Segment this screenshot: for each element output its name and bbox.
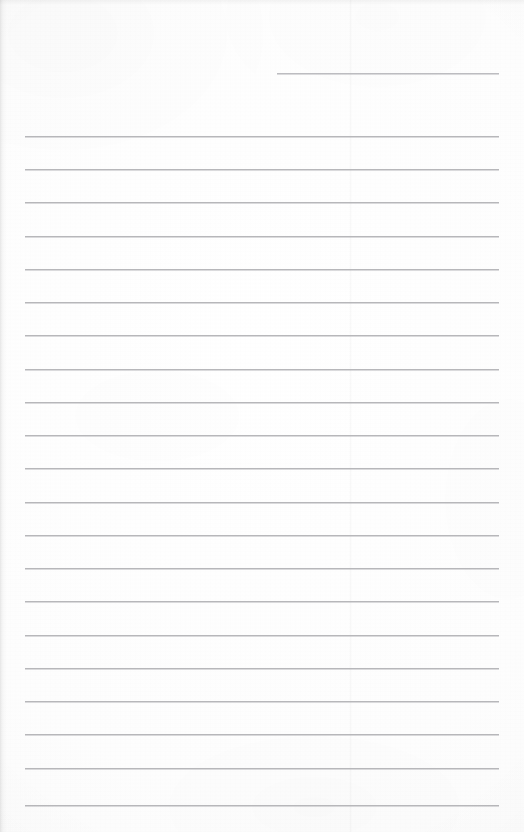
ruled-line <box>25 568 499 569</box>
scanned-page <box>0 0 524 832</box>
ruled-line <box>25 369 499 370</box>
ruled-line <box>25 468 499 469</box>
ruled-line <box>25 701 499 702</box>
ruled-line <box>25 805 499 806</box>
vertical-fold-line <box>349 0 352 832</box>
ruled-line <box>25 535 499 536</box>
ruled-line <box>25 302 499 303</box>
ruled-line <box>25 601 499 602</box>
ruled-line <box>25 335 499 336</box>
ruled-line <box>25 136 499 137</box>
ruled-line <box>25 435 499 436</box>
ruled-line <box>25 202 499 203</box>
paper-shading <box>0 0 524 832</box>
header-rule <box>277 73 499 74</box>
scan-edge-top <box>0 0 524 5</box>
ruled-line <box>25 668 499 669</box>
ruled-line <box>25 502 499 503</box>
ruled-line <box>25 635 499 636</box>
ruled-line <box>25 402 499 403</box>
ruled-line <box>25 169 499 170</box>
ruled-line <box>25 269 499 270</box>
ruled-line <box>25 734 499 735</box>
ruled-line <box>25 768 499 769</box>
ruled-line <box>25 236 499 237</box>
scan-edge-left <box>0 0 7 832</box>
